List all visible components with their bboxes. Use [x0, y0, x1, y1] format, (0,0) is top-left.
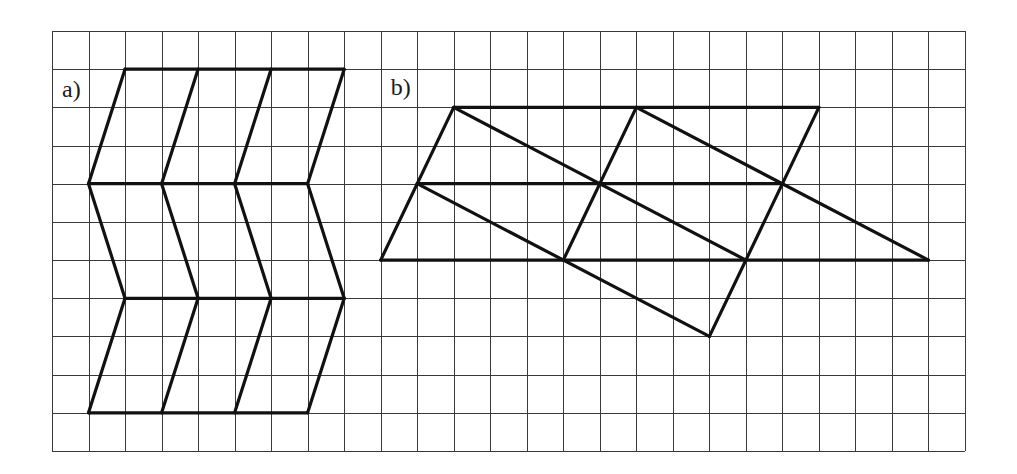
panel-a-edge — [308, 298, 345, 413]
panel-a-edge — [89, 184, 126, 299]
panel-a-label: a) — [62, 77, 81, 101]
panel-a-edge — [89, 298, 126, 413]
panel-a-edge — [162, 69, 199, 184]
panel-a-edge — [235, 69, 272, 184]
panel-a-edge — [162, 184, 199, 299]
panel-a-edge — [308, 184, 345, 299]
panel-a-edge — [235, 298, 272, 413]
panel-a-edge — [89, 69, 126, 184]
panel-a-edge — [235, 184, 272, 299]
panel-a-edge — [308, 69, 345, 184]
panel-b-label: b) — [391, 75, 411, 99]
panel-a-tessellation — [89, 69, 345, 413]
panel-a-edge — [162, 298, 199, 413]
grid-diagram — [0, 0, 1017, 474]
